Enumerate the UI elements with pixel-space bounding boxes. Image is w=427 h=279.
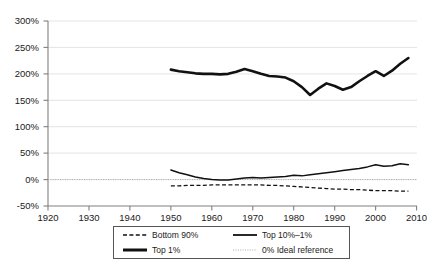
y-axis-tick-labels: 300% 250% 200% 150% 100% 50% 0% -50% (15, 15, 40, 211)
legend-label-bottom-90: Bottom 90% (152, 231, 198, 240)
x-tick-label-1980: 1980 (283, 212, 304, 223)
y-tick-label-50: 50% (20, 147, 40, 158)
y-tick-label-0: 0% (25, 174, 39, 185)
legend-entry-ideal-reference: 0% Ideal reference (224, 245, 351, 255)
chart-series-group (48, 58, 417, 191)
x-tick-label-1960: 1960 (201, 212, 222, 223)
series-line-top-1 (171, 58, 409, 95)
legend-label-top-10-to-1: Top 10%–1% (262, 231, 312, 240)
legend-label-top-1: Top 1% (152, 246, 180, 255)
y-tick-label-200: 200% (15, 68, 40, 79)
x-tick-label-1940: 1940 (119, 212, 140, 223)
medium-solid-line-swatch (233, 230, 257, 240)
series-line-bottom-90 (171, 185, 409, 191)
x-tick-label-2010: 2010 (406, 212, 427, 223)
chart-figure: 300% 250% 200% 150% 100% 50% 0% -50% 192… (0, 0, 427, 279)
dashed-line-swatch (123, 230, 147, 240)
legend-label-ideal-reference: 0% Ideal reference (262, 246, 333, 255)
chart-legend: Bottom 90% Top 10%–1% Top 1% 0% Ideal re… (113, 226, 350, 259)
y-tick-label-250: 250% (15, 42, 40, 53)
thick-solid-line-swatch (123, 245, 147, 255)
x-tick-label-1950: 1950 (160, 212, 181, 223)
x-tick-label-2000: 2000 (365, 212, 386, 223)
x-tick-label-1990: 1990 (324, 212, 345, 223)
chart-gridlines (48, 21, 417, 180)
chart-axes (48, 21, 417, 206)
y-tick-label-300: 300% (15, 15, 40, 26)
x-tick-label-1920: 1920 (37, 212, 58, 223)
y-tick-label-100: 100% (15, 121, 40, 132)
dotted-line-swatch (233, 245, 257, 255)
series-line-top-10-to-1 (171, 164, 409, 180)
legend-entry-top-1: Top 1% (114, 245, 224, 255)
x-tick-label-1930: 1930 (78, 212, 99, 223)
legend-entry-bottom-90: Bottom 90% (114, 230, 224, 240)
y-tick-label-150: 150% (15, 95, 40, 106)
y-axis-ticks (44, 21, 49, 206)
x-axis-tick-labels: 1920 1930 1940 1950 1960 1970 1980 1990 … (37, 212, 427, 223)
x-tick-label-1970: 1970 (242, 212, 263, 223)
x-axis-ticks (48, 206, 417, 211)
y-tick-label-neg50: -50% (17, 200, 40, 211)
legend-entry-top-10-to-1: Top 10%–1% (224, 230, 351, 240)
